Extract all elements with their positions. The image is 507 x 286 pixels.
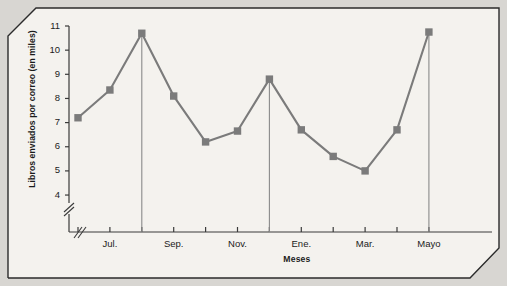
x-axis-tick-label: Mar. <box>335 238 395 249</box>
x-axis-tick-label: Jul. <box>80 238 140 249</box>
y-axis-tick-label: 4 <box>38 189 60 200</box>
data-point-marker <box>361 167 368 174</box>
y-axis-tick-label: 8 <box>38 92 60 103</box>
data-point-marker <box>266 75 273 82</box>
y-axis-tick-label: 9 <box>38 68 60 79</box>
x-axis-tick-label: Ene. <box>271 238 331 249</box>
y-axis-tick-label: 7 <box>38 116 60 127</box>
chart-figure: Libros enviados por correo (en miles) 45… <box>0 0 507 286</box>
y-axis-tick-label: 6 <box>38 140 60 151</box>
x-axis-tick-label: Nov. <box>208 238 268 249</box>
y-axis-tick-label: 10 <box>38 44 60 55</box>
data-point-marker <box>74 114 81 121</box>
data-point-marker <box>234 127 241 134</box>
data-point-marker <box>106 86 113 93</box>
drop-lines <box>142 32 429 232</box>
data-point-marker <box>202 138 209 145</box>
data-point-marker <box>298 126 305 133</box>
data-point-marker <box>425 28 432 35</box>
x-axis-title: Meses <box>283 254 310 264</box>
x-axis-tick-label: Mayo <box>399 238 459 249</box>
data-point-marker <box>138 30 145 37</box>
y-axis-tick-label: 11 <box>38 20 60 31</box>
y-axis-tick-label: 5 <box>38 164 60 175</box>
data-point-marker <box>330 153 337 160</box>
data-series <box>74 28 432 174</box>
data-point-marker <box>170 92 177 99</box>
x-axis-tick-label: Sep. <box>144 238 204 249</box>
y-axis-title: Libros enviados por correo (en miles) <box>27 9 37 209</box>
data-point-marker <box>393 126 400 133</box>
